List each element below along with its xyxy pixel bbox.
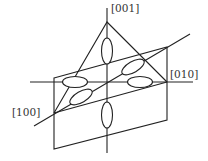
lobe-010-right — [128, 77, 153, 88]
lobe-001-lower — [102, 102, 113, 128]
lobe-010-left — [63, 77, 88, 88]
orbital-diagram — [0, 0, 208, 161]
diagram-canvas: [001] [010] [100] — [0, 0, 208, 161]
label-axis-010: [010] — [170, 69, 198, 80]
lobe-001-upper — [102, 38, 113, 64]
label-axis-001: [001] — [111, 3, 139, 14]
lobe-100-lower — [67, 86, 94, 108]
label-axis-100: [100] — [12, 107, 40, 118]
